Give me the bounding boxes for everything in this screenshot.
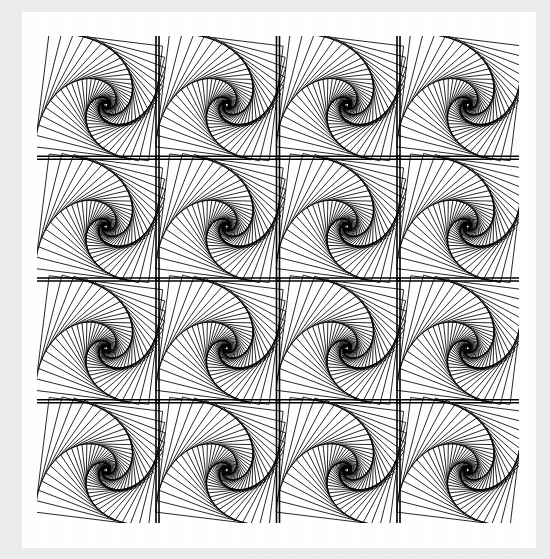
spiral-center-marker <box>105 225 108 228</box>
spiral-center-marker <box>466 469 469 472</box>
nested-rotating-squares-svg <box>37 36 519 523</box>
spiral-tile <box>397 36 519 161</box>
spiral-center-marker <box>346 103 349 106</box>
spiral-center-marker <box>346 225 349 228</box>
spiral-center-marker <box>346 347 349 350</box>
spiral-center-marker <box>346 469 349 472</box>
spiral-tile <box>37 36 165 161</box>
spiral-center-marker <box>225 347 228 350</box>
spiral-center-marker <box>225 469 228 472</box>
spiral-center-marker <box>466 347 469 350</box>
spiral-tile <box>276 153 406 282</box>
pattern-canvas <box>37 36 519 523</box>
spiral-center-marker <box>105 103 108 106</box>
spiral-tile <box>156 397 286 523</box>
spiral-tile <box>276 275 406 404</box>
spiral-center-marker <box>105 347 108 350</box>
spiral-center-marker <box>225 225 228 228</box>
spiral-center-marker <box>466 103 469 106</box>
spiral-center-marker <box>105 469 108 472</box>
spiral-tile <box>156 275 286 404</box>
spiral-center-marker <box>466 225 469 228</box>
spiral-tile <box>37 275 165 404</box>
spiral-tile <box>156 36 286 161</box>
spiral-tile <box>156 153 286 282</box>
spiral-tile <box>276 397 406 523</box>
spiral-center-marker <box>225 103 228 106</box>
spiral-tile <box>37 397 165 523</box>
spiral-tile <box>276 36 406 161</box>
spiral-tile <box>397 275 519 404</box>
artwork-root: Nested Rotating Squares Tiling Four by f… <box>0 0 550 559</box>
spiral-tile <box>397 153 519 282</box>
spiral-tile <box>37 153 165 282</box>
spiral-tile <box>397 397 519 523</box>
tiles-group <box>37 36 519 523</box>
